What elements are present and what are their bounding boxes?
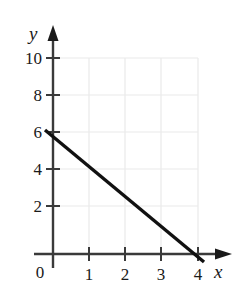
- y-axis-label: y: [29, 24, 37, 43]
- y-axis-arrowhead: [48, 25, 59, 41]
- x-tick-label-0: 0: [36, 264, 45, 281]
- y-tick-label-6: 6: [34, 124, 43, 141]
- y-tick-label-8: 8: [34, 87, 43, 104]
- graph-figure: 10 8 6 4 2 0 1 2 3 4 y x: [0, 0, 236, 301]
- axes: [34, 36, 222, 268]
- x-tick-label-2: 2: [121, 266, 130, 283]
- coordinate-plane-svg: [0, 0, 236, 301]
- y-tick-label-4: 4: [34, 161, 43, 178]
- x-tick-label-3: 3: [157, 266, 166, 283]
- x-tick-label-1: 1: [85, 266, 94, 283]
- y-tick-label-10: 10: [25, 50, 42, 67]
- x-tick-label-4: 4: [194, 266, 203, 283]
- y-tick-label-2: 2: [34, 198, 43, 215]
- x-axis-label: x: [214, 262, 222, 281]
- x-axis-arrowhead: [215, 249, 232, 260]
